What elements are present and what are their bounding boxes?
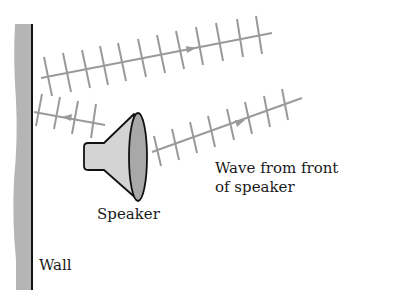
wall [13, 24, 32, 290]
wall-label: Wall [39, 256, 72, 274]
wave-label-line2: of speaker [215, 178, 295, 196]
wave-label-line1: Wave from front [215, 159, 338, 177]
back-wave [34, 94, 105, 138]
reflected-wave [41, 16, 272, 96]
diagram-canvas [0, 0, 398, 293]
speaker-label: Speaker [97, 205, 160, 223]
front-wave [152, 89, 302, 166]
